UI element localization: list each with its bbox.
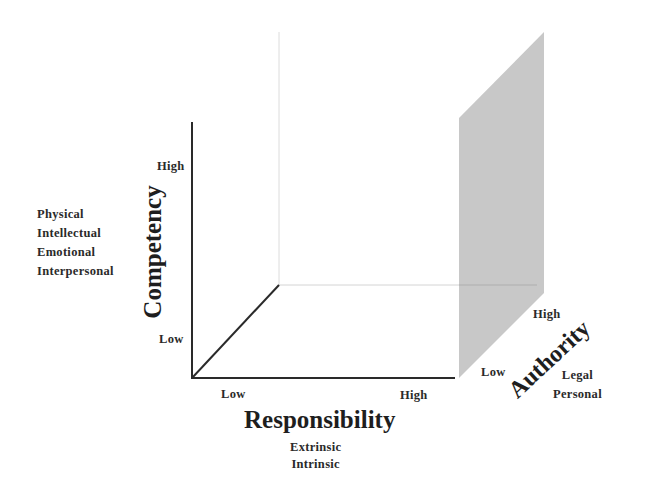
responsibility-dimension: Intrinsic [290, 456, 341, 473]
competency-dimensions-list: Physical Intellectual Emotional Interper… [37, 205, 114, 281]
competency-high-label: High [157, 160, 185, 173]
competency-low-label: Low [159, 333, 184, 346]
authority-high-label: High [533, 308, 561, 321]
responsibility-high-label: High [400, 389, 428, 402]
competency-dimension: Emotional [37, 243, 114, 262]
competency-dimension: Intellectual [37, 224, 114, 243]
competency-dimension: Interpersonal [37, 262, 114, 281]
authority-plane [459, 32, 544, 378]
competency-axis-title: Competency [140, 185, 165, 318]
responsibility-axis-title: Responsibility [244, 407, 395, 432]
responsibility-dimension: Extrinsic [290, 439, 341, 456]
authority-dimensions-list: Legal Personal [553, 366, 602, 404]
authority-dimension: Legal [553, 366, 602, 385]
authority-axis [192, 285, 279, 378]
responsibility-low-label: Low [221, 388, 246, 401]
three-axis-diagram: High Low Competency Physical Intellectua… [0, 0, 646, 485]
responsibility-dimensions-list: Extrinsic Intrinsic [290, 439, 341, 473]
competency-dimension: Physical [37, 205, 114, 224]
authority-dimension: Personal [553, 385, 602, 404]
authority-low-label: Low [481, 366, 506, 379]
